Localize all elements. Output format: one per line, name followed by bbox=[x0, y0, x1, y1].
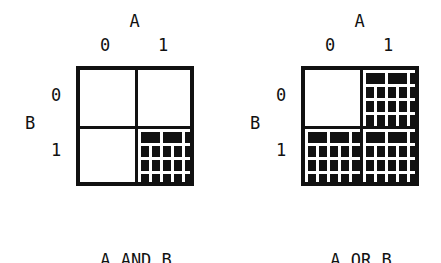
column-variable-label: A bbox=[301, 12, 418, 30]
truth-grid bbox=[76, 66, 194, 186]
column-value-1-label: 1 bbox=[359, 36, 417, 54]
cell-a1-b1 bbox=[135, 126, 190, 182]
caption-line-1: A AND B bbox=[56, 248, 216, 263]
column-value-1-label: 1 bbox=[134, 36, 192, 54]
diagram-caption: A OR B A MAX B bbox=[281, 198, 441, 263]
cell-a1-b0 bbox=[135, 70, 190, 126]
logic-operation-figure: A 0 1 B 0 1 A AND B A MIN B A 0 1 B 0 1 bbox=[0, 0, 441, 263]
column-variable-label: A bbox=[76, 12, 193, 30]
column-value-0-label: 0 bbox=[301, 36, 359, 54]
cell-a0-b1 bbox=[305, 126, 360, 182]
diagram-or-max: A 0 1 B 0 1 A OR B A MAX B bbox=[225, 0, 425, 263]
row-variable-label: B bbox=[20, 114, 40, 132]
cell-a0-b1 bbox=[80, 126, 135, 182]
cell-a1-b1 bbox=[360, 126, 415, 182]
caption-line-1: A OR B bbox=[281, 248, 441, 263]
cell-a0-b0 bbox=[80, 70, 135, 126]
row-value-1-label: 1 bbox=[271, 141, 291, 159]
truth-grid bbox=[301, 66, 419, 186]
cell-a0-b0 bbox=[305, 70, 360, 126]
row-variable-label: B bbox=[245, 114, 265, 132]
diagram-caption: A AND B A MIN B bbox=[56, 198, 216, 263]
column-value-0-label: 0 bbox=[76, 36, 134, 54]
cell-a1-b0 bbox=[360, 70, 415, 126]
row-value-1-label: 1 bbox=[46, 141, 66, 159]
row-value-0-label: 0 bbox=[46, 86, 66, 104]
diagram-and-min: A 0 1 B 0 1 A AND B A MIN B bbox=[0, 0, 200, 263]
row-value-0-label: 0 bbox=[271, 86, 291, 104]
